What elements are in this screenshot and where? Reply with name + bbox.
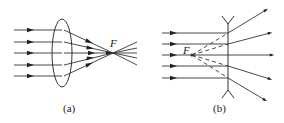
focus-label-a: F (109, 37, 117, 49)
virtual-rays-b (192, 33, 228, 78)
focus-point-b (190, 53, 193, 56)
concave-lens (222, 16, 234, 98)
incoming-rays-a (14, 28, 62, 78)
focus-label-b: F (182, 44, 190, 56)
caption-a: (a) (63, 102, 76, 115)
lens-diagram: F (a) (0, 0, 284, 123)
converging-rays-a (64, 30, 113, 76)
diverging-rays-b (228, 10, 272, 100)
caption-b: (b) (213, 102, 226, 115)
figure-a-convex-lens: F (a) (14, 19, 137, 115)
figure-b-concave-lens: F (b) (162, 10, 272, 115)
